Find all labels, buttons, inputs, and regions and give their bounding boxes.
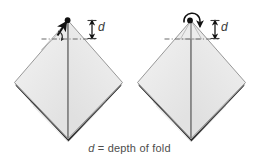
figure-caption: d = depth of fold <box>0 142 259 154</box>
depth-label-left: d <box>98 20 105 34</box>
caption-text: = depth of fold <box>95 142 171 154</box>
apex-marker-dot <box>187 18 193 24</box>
depth-label-right: d <box>221 20 228 34</box>
apex-marker-dot <box>65 17 71 23</box>
